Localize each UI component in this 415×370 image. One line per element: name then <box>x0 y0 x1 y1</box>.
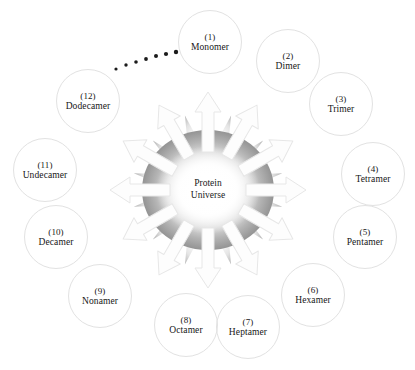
node-nonamer[interactable]: (9)Nonamer <box>68 264 132 328</box>
continuation-dot <box>134 60 138 64</box>
node-hexamer[interactable]: (6)Hexamer <box>281 263 345 327</box>
continuation-dot <box>144 57 148 61</box>
node-label: Trimer <box>328 104 355 115</box>
node-label: Tetramer <box>356 174 391 185</box>
node-label: Dodecamer <box>66 101 111 112</box>
node-index: (1) <box>205 32 216 42</box>
node-index: (10) <box>48 227 63 237</box>
burst-core-glow <box>156 146 260 234</box>
node-label: Octamer <box>169 325 202 336</box>
continuation-dots <box>114 50 178 71</box>
continuation-dot <box>154 54 158 58</box>
node-index: (6) <box>308 285 319 295</box>
node-label: Monomer <box>191 42 229 53</box>
node-undecamer[interactable]: (11)Undecamer <box>13 138 77 202</box>
node-dimer[interactable]: (2)Dimer <box>256 29 320 93</box>
node-index: (12) <box>80 91 95 101</box>
continuation-dot <box>124 63 127 66</box>
continuation-dot <box>174 50 178 54</box>
node-index: (3) <box>336 94 347 104</box>
node-monomer[interactable]: (1)Monomer <box>178 10 242 74</box>
node-index: (7) <box>243 317 254 327</box>
node-label: Undecamer <box>23 170 68 181</box>
node-pentamer[interactable]: (5)Pentamer <box>333 205 397 269</box>
node-index: (11) <box>37 160 52 170</box>
node-octamer[interactable]: (8)Octamer <box>154 293 218 357</box>
node-index: (4) <box>368 164 379 174</box>
node-tetramer[interactable]: (4)Tetramer <box>341 142 405 206</box>
node-index: (2) <box>283 51 294 61</box>
node-heptamer[interactable]: (7)Heptamer <box>216 295 280 359</box>
node-dodecamer[interactable]: (12)Dodecamer <box>56 69 120 133</box>
node-index: (8) <box>181 315 192 325</box>
node-label: Dimer <box>276 61 301 72</box>
node-decamer[interactable]: (10)Decamer <box>24 205 88 269</box>
node-label: Heptamer <box>229 327 267 338</box>
node-label: Pentamer <box>347 237 384 248</box>
node-trimer[interactable]: (3)Trimer <box>309 72 373 136</box>
node-label: Decamer <box>39 237 74 248</box>
node-index: (5) <box>360 227 371 237</box>
continuation-dot <box>114 67 117 70</box>
node-label: Nonamer <box>82 296 118 307</box>
node-index: (9) <box>95 286 106 296</box>
continuation-dot <box>164 52 168 56</box>
figure-canvas: (1)Monomer(2)Dimer(3)Trimer(4)Tetramer(5… <box>0 0 415 370</box>
node-label: Hexamer <box>295 295 331 306</box>
